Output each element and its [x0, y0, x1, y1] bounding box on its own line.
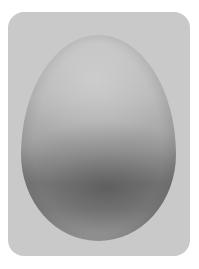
- image-stage: [0, 0, 199, 269]
- egg: [21, 35, 176, 241]
- gray-card-background: [8, 12, 190, 256]
